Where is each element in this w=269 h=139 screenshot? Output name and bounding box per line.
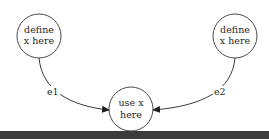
node-define-right: define x here	[213, 14, 257, 58]
node-define-left-line2: x here	[24, 35, 55, 46]
edge-e1-label: e1	[47, 86, 59, 97]
edge-e2-label: e2	[214, 86, 226, 97]
node-define-right-line1: define	[220, 24, 250, 35]
edge-e2	[153, 58, 235, 110]
bottom-rule	[0, 131, 269, 139]
node-use: use x here	[109, 87, 153, 131]
edge-e1	[39, 58, 109, 110]
node-define-left: define x here	[17, 14, 61, 58]
node-define-left-line1: define	[24, 24, 54, 35]
dataflow-diagram: e1 e2 define x here define x here use x …	[0, 0, 269, 139]
node-use-line1: use x	[119, 97, 145, 108]
node-define-right-line2: x here	[220, 35, 251, 46]
node-use-line2: here	[120, 109, 142, 120]
